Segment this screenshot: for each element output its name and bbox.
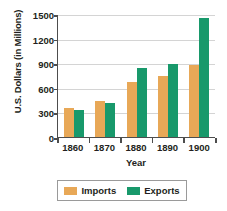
y-axis-tick-mark — [54, 15, 59, 17]
x-axis-tick-label: 1900 — [183, 142, 215, 153]
legend-entry-exports: Exports — [127, 185, 179, 196]
bar-exports-1860 — [74, 110, 84, 137]
y-axis-tick-label: 600 — [38, 83, 54, 94]
bar-chart-figure: U.S. Dollars (in Millions) 0300600900120… — [0, 0, 227, 211]
x-axis-tick-label: 1860 — [57, 142, 89, 153]
legend-entry-imports: Imports — [64, 185, 116, 196]
bar-exports-1900 — [199, 18, 209, 137]
bar-group — [89, 15, 120, 137]
y-axis-tick-mark — [54, 113, 59, 115]
x-axis-tick-label: 1880 — [120, 142, 152, 153]
y-axis-tick-label: 900 — [38, 59, 54, 70]
exports-swatch — [127, 187, 140, 195]
imports-swatch — [64, 187, 77, 195]
x-axis-tick-mark — [215, 138, 217, 143]
bar-imports-1880 — [127, 82, 137, 137]
y-axis-tick-label: 1500 — [33, 10, 54, 21]
bar-group — [184, 15, 215, 137]
bar-exports-1880 — [137, 68, 147, 137]
y-axis-tick-mark — [54, 89, 59, 91]
x-axis-tick-labels: 18601870188018901900 — [57, 142, 215, 153]
bar-imports-1900 — [189, 65, 199, 137]
legend-label: Exports — [144, 185, 179, 196]
bar-imports-1860 — [64, 108, 74, 137]
y-axis-tick-labels: 030060090012001500 — [20, 15, 54, 138]
plot-area — [57, 15, 215, 138]
y-axis-tick-mark — [54, 40, 59, 42]
y-axis-tick-mark — [54, 64, 59, 66]
y-axis-tick-label: 1200 — [33, 34, 54, 45]
bar-group — [152, 15, 183, 137]
x-axis-title: Year — [57, 157, 215, 168]
bar-exports-1890 — [168, 64, 178, 137]
bar-group — [58, 15, 89, 137]
chart-legend: ImportsExports — [57, 180, 187, 201]
bar-exports-1870 — [105, 103, 115, 137]
x-axis-tick-label: 1890 — [152, 142, 184, 153]
bar-groups — [58, 15, 215, 137]
bar-imports-1890 — [158, 76, 168, 138]
legend-label: Imports — [81, 185, 116, 196]
x-axis-tick-label: 1870 — [89, 142, 121, 153]
bar-group — [121, 15, 152, 137]
y-axis-tick-label: 300 — [38, 108, 54, 119]
bar-imports-1870 — [95, 101, 105, 137]
